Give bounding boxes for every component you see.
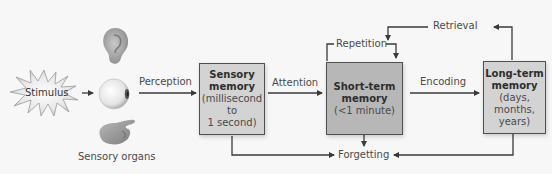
short-term-memory-title-2: memory [342, 93, 388, 105]
forgetting-label: Forgetting [338, 150, 389, 160]
long-term-memory-title-2: memory [492, 80, 538, 92]
repetition-left-line [327, 44, 334, 61]
sensory-memory-duration-3: 1 second) [207, 117, 256, 129]
long-term-memory-title-1: Long-term [485, 68, 544, 80]
short-term-memory-title-1: Short-term [334, 81, 396, 93]
hand-icon [98, 118, 138, 146]
short-term-memory-duration: (<1 minute) [334, 105, 395, 117]
sensory-organs-label: Sensory organs [78, 152, 155, 162]
long-term-memory-duration-1: (days, [499, 92, 530, 104]
stimulus-label: Stimulus [25, 88, 68, 98]
long-term-memory-box: Long-term memory (days, months, years) [483, 61, 546, 134]
sensory-memory-box: Sensory memory (millisecond to 1 second) [199, 63, 265, 135]
forgetting-from-sensory-arrow [232, 136, 334, 155]
sensory-memory-duration-2: to [227, 105, 237, 117]
repetition-arrow [386, 44, 396, 58]
short-term-memory-box: Short-term memory (<1 minute) [326, 62, 403, 135]
attention-label: Attention [272, 78, 318, 88]
perception-label: Perception [139, 77, 192, 87]
long-term-memory-duration-3: years) [499, 116, 530, 128]
sensory-memory-duration-1: (millisecond [202, 93, 262, 105]
encoding-label: Encoding [420, 77, 466, 87]
long-term-memory-duration-2: months, [494, 104, 535, 116]
repetition-label: Repetition [336, 39, 387, 49]
retrieval-arrow [388, 27, 428, 40]
retrieval-label: Retrieval [433, 21, 477, 31]
forgetting-from-long-term-arrow [394, 134, 513, 155]
sensory-memory-title-1: Sensory [209, 69, 254, 81]
retrieval-right-line [494, 27, 512, 60]
ear-icon [100, 26, 130, 66]
sensory-memory-title-2: memory [209, 81, 255, 93]
eye-icon [97, 77, 131, 111]
